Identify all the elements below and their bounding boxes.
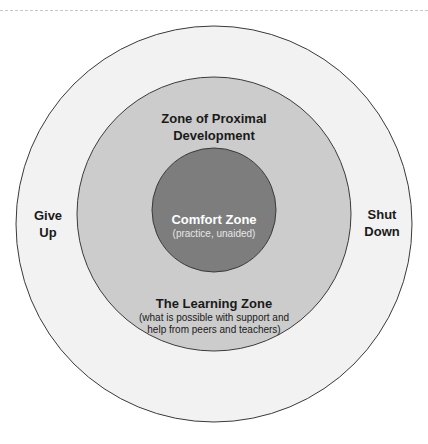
comfort-zone-title: Comfort Zone (154, 212, 274, 228)
give-up-label: Give Up (20, 207, 76, 241)
shut-down-line-2: Down (354, 223, 410, 240)
learning-zone-desc-line-1: (what is possible with support and (104, 312, 324, 324)
learning-zone-desc-line-2: help from peers and teachers) (104, 324, 324, 336)
comfort-zone-label: Comfort Zone (practice, unaided) (154, 212, 274, 240)
learning-zone-title: The Learning Zone (104, 296, 324, 312)
shut-down-label: Shut Down (354, 206, 410, 240)
inner-circle-zone (152, 148, 276, 272)
zpd-title-line-1: Zone of Proximal (134, 110, 294, 127)
shut-down-line-1: Shut (354, 206, 410, 223)
zpd-title: Zone of Proximal Development (134, 110, 294, 144)
give-up-line-2: Up (20, 224, 76, 241)
give-up-line-1: Give (20, 207, 76, 224)
zpd-title-line-2: Development (134, 127, 294, 144)
learning-zone-label: The Learning Zone (what is possible with… (104, 296, 324, 336)
comfort-zone-subtitle: (practice, unaided) (154, 228, 274, 240)
